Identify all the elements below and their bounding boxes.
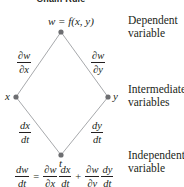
node-w-dot xyxy=(58,29,63,34)
edge-label-dw-dx: ∂w ∂x xyxy=(17,50,31,75)
frac-num: dy xyxy=(91,120,103,133)
frac-den: ∂x xyxy=(45,177,55,187)
plus-sign: + xyxy=(75,171,81,182)
side-label-line: Intermediate xyxy=(128,83,184,96)
side-label-line: variables xyxy=(128,96,184,109)
frac-dw-dt: dw dt xyxy=(15,164,29,187)
side-label-line: variable xyxy=(128,162,184,175)
frac-den: dt xyxy=(21,133,29,145)
frac-den: dt xyxy=(18,177,26,187)
frac-num: ∂w xyxy=(43,164,57,177)
frac-den: dt xyxy=(93,133,101,145)
edge-label-dy-dt: dy dt xyxy=(91,120,103,145)
side-label-intermediate: Intermediate variables xyxy=(128,83,184,108)
equals-sign: = xyxy=(33,171,39,182)
frac-num: dx xyxy=(59,164,71,177)
node-y-dot xyxy=(105,94,110,99)
side-label-independent: Independent variable xyxy=(128,149,184,174)
frac-den: dt xyxy=(103,177,111,187)
frac-num: dw xyxy=(15,164,29,177)
edge-label-dw-dy: ∂w ∂y xyxy=(91,50,105,75)
node-w-label: w = f(x, y) xyxy=(48,16,94,27)
frac-num: dy xyxy=(101,164,113,177)
side-label-dependent: Dependent variable xyxy=(128,14,178,39)
edge-label-dx-dt: dx dt xyxy=(19,120,31,145)
node-y-label: y xyxy=(113,91,118,102)
frac-pw-px: ∂w ∂x xyxy=(43,164,57,187)
frac-num: ∂w xyxy=(17,50,31,63)
frac-den: dt xyxy=(61,177,69,187)
frac-pw-py: ∂w ∂y xyxy=(85,164,99,187)
frac-dx-dt: dx dt xyxy=(59,164,71,187)
side-label-line: Independent xyxy=(128,149,184,162)
node-x-dot xyxy=(13,94,18,99)
frac-den: ∂x xyxy=(19,63,29,75)
side-label-line: variable xyxy=(128,27,178,40)
frac-num: ∂w xyxy=(85,164,99,177)
chain-rule-formula: dw dt = ∂w ∂x dx dt + ∂w ∂y dy dt xyxy=(14,164,114,187)
frac-num: dx xyxy=(19,120,31,133)
frac-den: ∂y xyxy=(87,177,97,187)
frac-dy-dt: dy dt xyxy=(101,164,113,187)
frac-num: ∂w xyxy=(91,50,105,63)
side-label-line: Dependent xyxy=(128,14,178,27)
node-x-label: x xyxy=(5,91,10,102)
frac-den: ∂y xyxy=(93,63,103,75)
